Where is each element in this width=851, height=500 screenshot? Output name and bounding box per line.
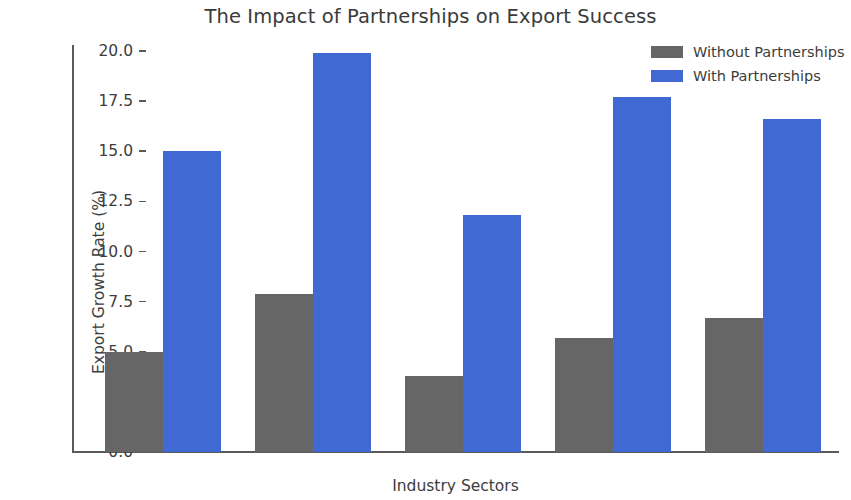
- y-axis-tick-label: 17.5: [98, 91, 133, 111]
- bar-agriculture-with: [463, 215, 521, 452]
- chart-title: The Impact of Partnerships on Export Suc…: [73, 4, 788, 30]
- bar-machinery-without: [705, 318, 763, 452]
- bar-machinery-with: [763, 119, 821, 452]
- y-axis-tick-mark: [139, 100, 146, 102]
- y-axis-tick-mark: [139, 201, 146, 203]
- legend-item: Without Partnerships: [651, 40, 847, 64]
- legend-label: With Partnerships: [693, 67, 821, 85]
- chart-legend: Without PartnershipsWith Partnerships: [651, 40, 847, 88]
- y-axis-tick-mark: [139, 150, 146, 152]
- y-axis-tick-label: 20.0: [98, 41, 133, 61]
- plot-area: 0.02.55.07.510.012.515.017.520.0 Export …: [73, 51, 838, 452]
- bar-pharmaceuticals-with: [613, 97, 671, 452]
- legend-label: Without Partnerships: [693, 43, 845, 61]
- bar-technology-without: [255, 294, 313, 452]
- x-axis-label: Industry Sectors: [73, 477, 838, 495]
- bar-automotive-without: [105, 352, 163, 452]
- legend-item: With Partnerships: [651, 64, 847, 88]
- legend-swatch-icon: [651, 70, 683, 82]
- y-axis-tick-mark: [139, 50, 146, 52]
- bar-pharmaceuticals-without: [555, 338, 613, 452]
- bar-agriculture-without: [405, 376, 463, 452]
- bar-technology-with: [313, 53, 371, 452]
- y-axis-tick-mark: [139, 301, 146, 303]
- y-axis-tick-label: 7.5: [108, 292, 133, 312]
- legend-swatch-icon: [651, 46, 683, 58]
- y-axis-tick-mark: [139, 251, 146, 253]
- chart-figure: The Impact of Partnerships on Export Suc…: [0, 0, 851, 500]
- bar-automotive-with: [163, 151, 221, 452]
